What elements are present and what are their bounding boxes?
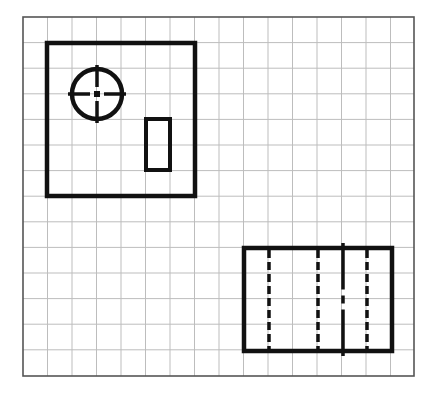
front-view [244, 243, 392, 356]
drawing-canvas [0, 0, 438, 393]
hole-centerlines [68, 65, 126, 123]
hidden-lines [269, 250, 367, 349]
